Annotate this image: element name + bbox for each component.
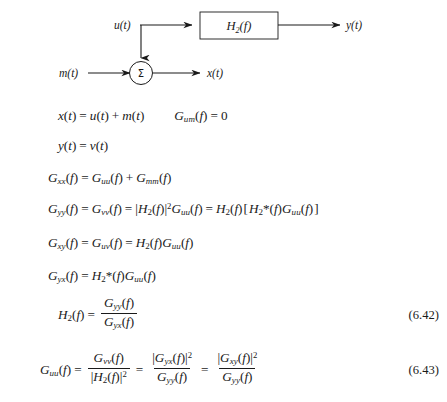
sigma-symbol: Σ (138, 68, 144, 79)
equation-gyx-body: Gyx(f)=H2*(f)Guu(f) (48, 268, 156, 285)
equation-list: x(t)=u(t)+m(t)Gum(f)=0 y(t)=v(t) Gxx(f)=… (0, 100, 447, 402)
fraction-gyxsq-over-gyy: |Gyx(f)|2Gyy(f) (149, 351, 195, 386)
equation-gxx: Gxx(f)=Guu(f)+Gmm(f) (0, 170, 447, 187)
fraction-gxysq-over-gyy: |Gxy(f)|2Gyy(f) (214, 351, 260, 386)
equation-y-of-t: y(t)=v(t) (0, 138, 447, 153)
fraction-gyy-over-gyx: Gyy(f)Gyx(f) (101, 296, 137, 331)
equation-gxy: Gxy(f)=Guv(f)=H2(f)Guu(f) (0, 235, 447, 252)
equation-guu: Guu(f)=Gvv(f)|H2(f)|2=|Gyx(f)|2Gyy(f)=|G… (0, 353, 447, 388)
x-of-t-label: x(t) (206, 67, 223, 80)
m-of-t-label: m(t) (59, 67, 78, 80)
equation-number-643: (6.43) (409, 363, 439, 378)
y-of-t-label: y(t) (345, 19, 362, 32)
equation-number-642: (6.42) (409, 308, 439, 323)
equation-gyy: Gyy(f)=Gvv(f)=|H2(f)|2Guu(f)=H2(f)[H2*(f… (0, 201, 447, 218)
equation-gyy-body: Gyy(f)=Gvv(f)=|H2(f)|2Guu(f)=H2(f)[H2*(f… (48, 201, 320, 218)
u-of-t-label: u(t) (114, 19, 131, 32)
equation-y-of-t-body: y(t)=v(t) (58, 138, 108, 153)
block-diagram: H2(f) u(t) y(t) m(t) Σ x(t) (0, 0, 447, 100)
equation-gyx: Gyx(f)=H2*(f)Guu(f) (0, 268, 447, 285)
equation-gxx-body: Gxx(f)=Guu(f)+Gmm(f) (48, 170, 171, 187)
equation-x-of-t-body: x(t)=u(t)+m(t)Gum(f)=0 (58, 108, 228, 125)
equation-x-of-t: x(t)=u(t)+m(t)Gum(f)=0 (0, 108, 447, 125)
h2-block-label-arg: (f) (240, 19, 252, 33)
fraction-gvv-over-h2sq: Gvv(f)|H2(f)|2 (88, 351, 130, 386)
equation-h2: H2(f)=Gyy(f)Gyx(f) (6.42) (0, 298, 447, 333)
equation-h2-body: H2(f)=Gyy(f)Gyx(f) (58, 298, 140, 333)
equation-gxy-body: Gxy(f)=Guv(f)=H2(f)Guu(f) (48, 235, 193, 252)
equation-guu-body: Guu(f)=Gvv(f)|H2(f)|2=|Gyx(f)|2Gyy(f)=|G… (40, 353, 263, 388)
